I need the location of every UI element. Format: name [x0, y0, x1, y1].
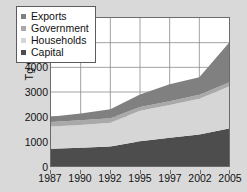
- legend-item-government[interactable]: Government: [21, 23, 89, 34]
- legend-item-exports[interactable]: Exports: [21, 11, 89, 22]
- x-axis-tick-mark: [140, 170, 141, 174]
- x-axis-tick-mark: [110, 170, 111, 174]
- x-axis-tick-mark: [50, 170, 51, 174]
- x-axis-tick-mark: [229, 170, 230, 174]
- legend-item-label: Households: [31, 35, 86, 46]
- x-axis-tick-mark: [80, 170, 81, 174]
- y-axis-tick-label: 1000: [16, 137, 48, 147]
- x-axis-tick-labels: 1987199019921995199720022005: [50, 170, 230, 190]
- y-axis-tick-label: 2000: [16, 112, 48, 122]
- chart-figure: Tg CO2 6000500040003000200010000 1987199…: [0, 0, 247, 192]
- y-axis-tick-label: 3000: [16, 87, 48, 97]
- legend-item-capital[interactable]: Capital: [21, 47, 89, 58]
- legend-swatch-icon: [21, 26, 26, 31]
- legend-item-households[interactable]: Households: [21, 35, 89, 46]
- x-axis-tick-mark: [170, 170, 171, 174]
- legend-item-label: Government: [31, 23, 89, 34]
- legend-swatch-icon: [21, 38, 26, 43]
- x-axis-tick-label: 2005: [218, 172, 241, 184]
- x-axis-tick-mark: [200, 170, 201, 174]
- legend-swatch-icon: [21, 14, 26, 19]
- legend-swatch-icon: [21, 50, 26, 55]
- y-axis-tick-label: 4000: [16, 62, 48, 72]
- legend-item-label: Capital: [31, 47, 64, 58]
- y-axis-tick-label: 0: [16, 162, 48, 172]
- chart-legend: ExportsGovernmentHouseholdsCapital: [16, 6, 96, 63]
- legend-item-label: Exports: [31, 11, 67, 22]
